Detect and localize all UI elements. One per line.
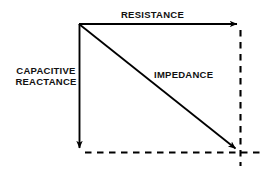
capacitive-reactance-label-line2: REACTANCE bbox=[14, 76, 78, 87]
vector-diagram-canvas bbox=[0, 0, 266, 175]
capacitive-reactance-label: CAPACITIVEREACTANCE bbox=[14, 65, 78, 87]
resistance-label: RESISTANCE bbox=[121, 9, 184, 20]
impedance-label: IMPEDANCE bbox=[154, 69, 213, 80]
impedance-vector-line bbox=[79, 24, 236, 149]
impedance-vector-diagram: RESISTANCE CAPACITIVEREACTANCE IMPEDANCE bbox=[0, 0, 266, 175]
capacitive-reactance-label-line1: CAPACITIVE bbox=[16, 65, 75, 76]
